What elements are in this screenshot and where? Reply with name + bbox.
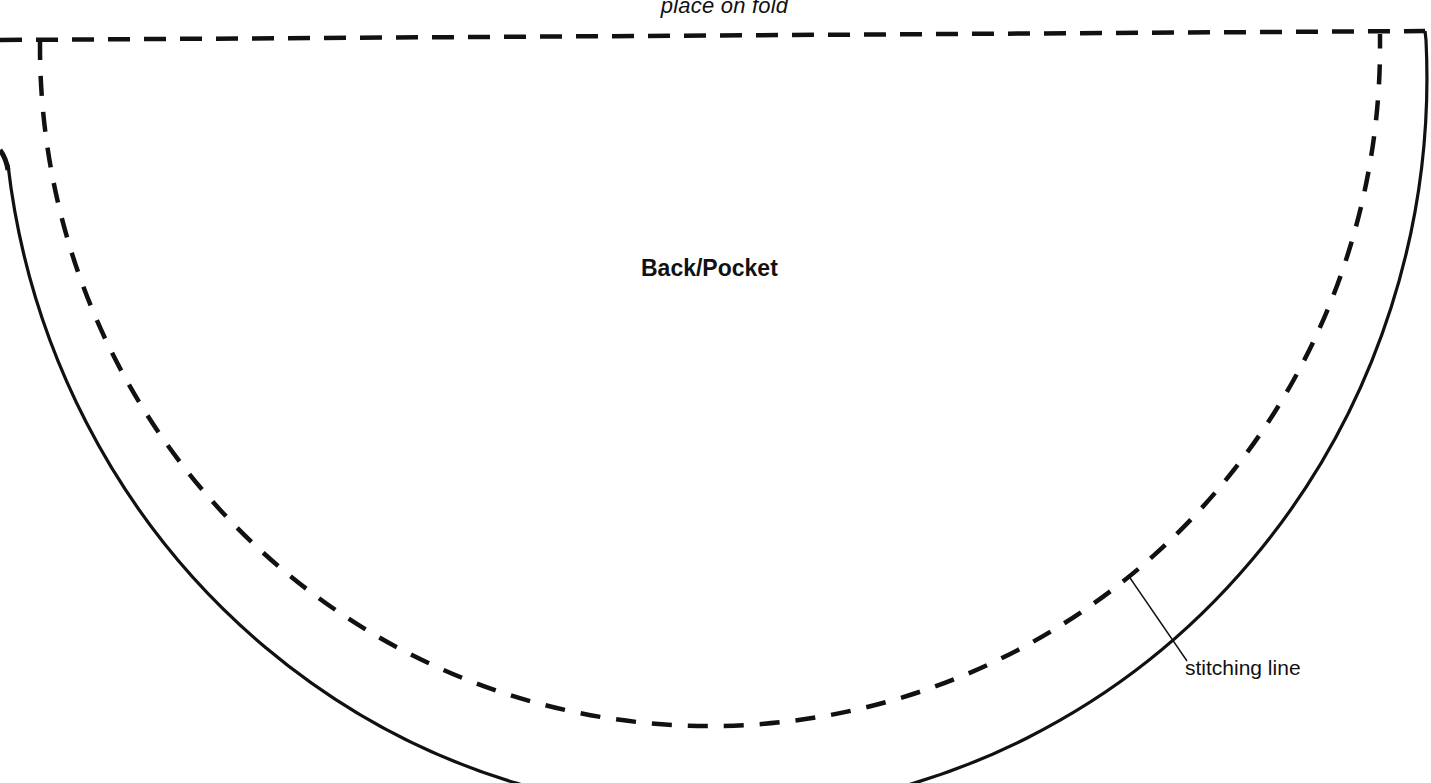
piece-title: Back/Pocket [641,255,778,282]
fold-line [0,31,1425,40]
stitching-line-label: stitching line [1185,656,1301,680]
fold-label: place on fold [0,0,1431,19]
cut-line-edge-mark [0,150,8,170]
stitching-line [40,34,1380,726]
stitching-leader-line [1128,575,1187,661]
